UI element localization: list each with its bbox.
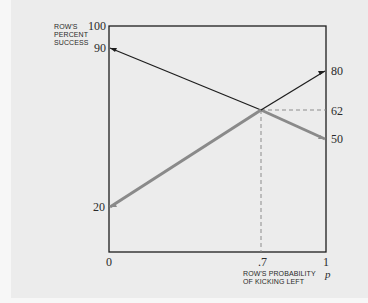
- arrowhead-90: [110, 48, 117, 52]
- x-variable-p: p: [325, 268, 331, 280]
- y-axis-label-line3: SUCCESS: [54, 39, 89, 47]
- y-tick-100: 100: [88, 20, 106, 32]
- line-90-to-50-thick: [261, 110, 325, 139]
- line-90-to-50-thin: [110, 48, 261, 110]
- y-tick-20: 20: [93, 201, 105, 213]
- right-tick-50: 50: [331, 133, 343, 145]
- x-tick-1: 1: [323, 256, 329, 268]
- y-axis-label-line1: ROW'S: [54, 23, 78, 31]
- y-tick-90: 90: [94, 42, 106, 54]
- right-tick-80: 80: [331, 65, 343, 77]
- x-axis-label-line1: ROW'S PROBABILITY: [243, 270, 316, 278]
- right-tick-62: 62: [331, 105, 343, 117]
- x-tick-0: 0: [106, 256, 112, 268]
- x-tick-07: .7: [258, 256, 267, 268]
- line-20-to-80-thin: [261, 71, 325, 110]
- y-axis-label-line2: PERCENT: [54, 31, 88, 39]
- line-20-to-80-thick: [110, 110, 261, 207]
- x-axis-label-line2: OF KICKING LEFT: [243, 278, 304, 286]
